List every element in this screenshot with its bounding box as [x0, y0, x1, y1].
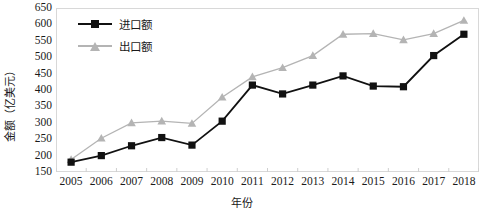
data-point-marker-import	[309, 81, 316, 88]
data-point-marker-import	[219, 118, 226, 125]
data-point-marker-import	[279, 90, 286, 97]
legend-label-import: 进口额	[119, 16, 152, 32]
data-point-marker-import	[98, 152, 105, 159]
data-point-marker-import	[68, 159, 75, 166]
y-axis-tick-label: 200	[18, 150, 52, 162]
y-axis-tick-label: 500	[18, 51, 52, 63]
data-point-marker-export	[218, 93, 227, 101]
data-point-marker-export	[460, 16, 469, 24]
data-point-marker-import	[400, 83, 407, 90]
y-axis-tick-label: 600	[18, 18, 52, 30]
data-point-marker-import	[188, 142, 195, 149]
x-axis-title: 年份	[0, 194, 483, 210]
line-chart: 金额（亿美元） 65060055050045040035030025020015…	[0, 0, 483, 218]
data-point-marker-export	[309, 51, 318, 59]
legend-item-export[interactable]: 出口额	[78, 36, 152, 56]
y-axis-tick-label: 400	[18, 84, 52, 96]
y-axis-tick-label: 350	[18, 100, 52, 112]
data-point-marker-import	[460, 31, 467, 38]
y-axis-title-wrap: 金额（亿美元）	[0, 38, 18, 168]
y-axis-tick-label: 650	[18, 2, 52, 14]
y-axis-tick-label: 250	[18, 133, 52, 145]
data-point-marker-export	[97, 134, 106, 142]
x-axis-tick-label: 2018	[442, 176, 483, 188]
x-axis-ticks: 2005200620072008200920102011201220132014…	[0, 176, 483, 192]
data-point-marker-import	[158, 134, 165, 141]
data-point-marker-import	[370, 82, 377, 89]
data-point-marker-import	[430, 52, 437, 59]
legend-item-import[interactable]: 进口额	[78, 14, 152, 34]
data-point-marker-import	[339, 72, 346, 79]
y-axis-tick-label: 550	[18, 35, 52, 47]
y-axis-tick-label: 450	[18, 68, 52, 80]
data-point-marker-export	[278, 63, 287, 71]
data-point-marker-import	[249, 81, 256, 88]
data-point-marker-export	[429, 29, 438, 37]
y-axis-tick-label: 300	[18, 117, 52, 129]
y-axis-title: 金额（亿美元）	[1, 38, 17, 168]
square-marker-icon	[78, 17, 112, 31]
legend-label-export: 出口额	[119, 38, 152, 54]
chart-legend: 进口额 出口额	[78, 14, 152, 58]
data-point-marker-import	[128, 142, 135, 149]
triangle-marker-icon	[78, 39, 112, 53]
